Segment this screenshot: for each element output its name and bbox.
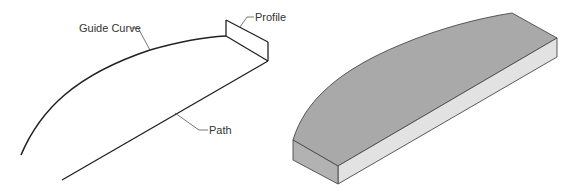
path-leader	[175, 113, 208, 130]
guide-curve	[21, 36, 226, 155]
sweep-diagram: Guide Curve Profile Path	[0, 0, 576, 195]
path-line	[62, 61, 268, 180]
profile-leader	[240, 17, 254, 27]
path-label: Path	[209, 124, 232, 136]
guide-curve-label: Guide Curve	[79, 22, 141, 34]
swept-solid	[293, 13, 557, 184]
profile-shape	[226, 20, 268, 61]
solid-top-face	[293, 13, 557, 166]
wireframe-sweep-setup: Guide Curve Profile Path	[21, 11, 286, 180]
profile-label: Profile	[255, 11, 286, 23]
